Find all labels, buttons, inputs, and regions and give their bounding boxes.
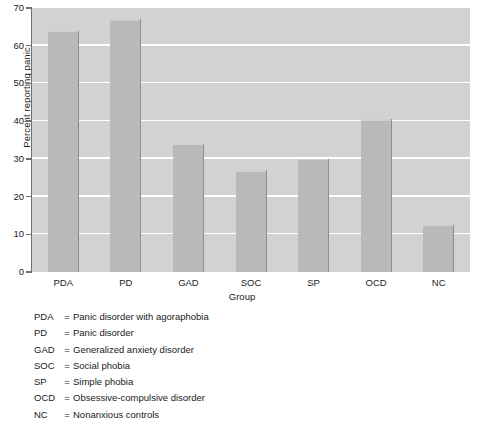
legend-equals-sign: =: [61, 407, 73, 423]
y-tick-label: 0: [2, 267, 24, 277]
legend-description: Social phobia: [73, 358, 130, 374]
legend-description: Panic disorder with agoraphobia: [73, 309, 209, 325]
legend-abbreviation: OCD: [34, 390, 61, 406]
x-tick-label: PD: [96, 277, 156, 288]
legend-equals-sign: =: [61, 390, 73, 406]
legend-equals-sign: =: [61, 325, 73, 341]
x-tick-label: NC: [409, 277, 469, 288]
legend-abbreviation: PDA: [34, 309, 61, 325]
plot-area: [32, 8, 470, 272]
y-tick-label: 50: [2, 78, 24, 88]
legend-equals-sign: =: [61, 309, 73, 325]
legend-entry: PD=Panic disorder: [34, 325, 209, 341]
x-axis-title: Group: [0, 291, 484, 302]
legend-entry: PDA=Panic disorder with agoraphobia: [34, 309, 209, 325]
x-tick-label: PDA: [33, 277, 93, 288]
bar: [110, 19, 141, 272]
legend-abbreviation: GAD: [34, 342, 61, 358]
legend-description: Panic disorder: [73, 325, 134, 341]
gridline: [32, 157, 470, 159]
legend-entry: GAD=Generalized anxiety disorder: [34, 342, 209, 358]
y-tick-label: 20: [2, 192, 24, 202]
gridline: [32, 7, 470, 9]
legend-equals-sign: =: [61, 374, 73, 390]
legend-abbreviation: PD: [34, 325, 61, 341]
legend-entry: SOC=Social phobia: [34, 358, 209, 374]
legend-description: Simple phobia: [73, 374, 133, 390]
bar: [173, 144, 204, 272]
x-tick-label: SP: [284, 277, 344, 288]
legend-description: Generalized anxiety disorder: [73, 342, 194, 358]
legend-description: Obsessive-compulsive disorder: [73, 390, 205, 406]
y-tick-label: 10: [2, 229, 24, 239]
legend-abbreviation: NC: [34, 407, 61, 423]
y-tick-label: 40: [2, 116, 24, 126]
bar: [361, 119, 392, 272]
gridline: [32, 120, 470, 122]
legend-key: PDA=Panic disorder with agoraphobiaPD=Pa…: [34, 309, 209, 423]
legend-equals-sign: =: [61, 342, 73, 358]
y-tick-label: 60: [2, 41, 24, 51]
legend-abbreviation: SOC: [34, 358, 61, 374]
legend-description: Nonanxious controls: [73, 407, 159, 423]
gridline: [32, 44, 470, 46]
x-tick-label: OCD: [346, 277, 406, 288]
bar: [236, 170, 267, 272]
y-tick-label: 30: [2, 154, 24, 164]
bar: [298, 159, 329, 272]
gridline: [32, 82, 470, 84]
bar: [48, 31, 79, 272]
x-tick-label: GAD: [158, 277, 218, 288]
bar: [423, 225, 454, 272]
legend-entry: SP=Simple phobia: [34, 374, 209, 390]
legend-entry: OCD=Obsessive-compulsive disorder: [34, 390, 209, 406]
y-tick-label: 70: [2, 3, 24, 13]
legend-equals-sign: =: [61, 358, 73, 374]
legend-abbreviation: SP: [34, 374, 61, 390]
legend-entry: NC=Nonanxious controls: [34, 407, 209, 423]
x-tick-label: SOC: [221, 277, 281, 288]
bar-chart-figure: Percent reporting panic 010203040506070 …: [0, 0, 484, 426]
